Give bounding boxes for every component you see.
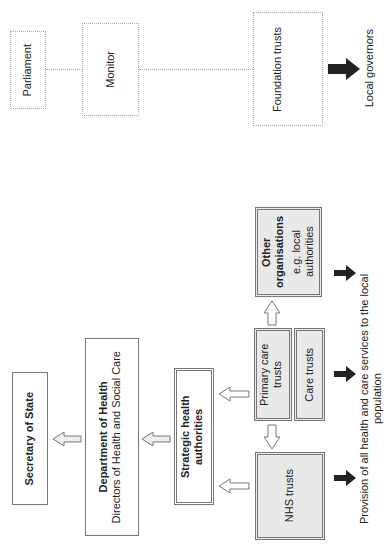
hollow-arrow-icon [263, 424, 281, 450]
nhs-trusts-label: NHS trusts [283, 469, 296, 522]
parliament-box: Parliament [10, 31, 46, 109]
foundation-trusts-box: Foundation trusts [253, 12, 323, 126]
hollow-arrow-icon [263, 300, 281, 326]
care-trusts-label: Care trusts [303, 348, 316, 402]
other-organisations-title: Other organisations [260, 210, 290, 294]
connector-line [139, 69, 253, 70]
nhs-trusts-box: NHS trusts [255, 452, 325, 540]
other-organisations-subtitle: e.g. local authorities [290, 210, 318, 294]
hollow-arrow-icon [141, 431, 171, 447]
strategic-health-authorities-label: Strategic health authorities [179, 371, 209, 502]
solid-arrow-icon [334, 470, 356, 486]
hollow-arrow-icon [218, 478, 250, 494]
hollow-arrow-icon [52, 431, 82, 447]
primary-care-trusts-label: Primary care trusts [258, 331, 288, 418]
solid-arrow-icon [328, 58, 360, 80]
secretary-of-state-label: Secretary of State [23, 392, 36, 486]
connector-line [46, 69, 82, 70]
local-governors-label: Local governors [360, 28, 380, 108]
secretary-of-state-box: Secretary of State [12, 372, 48, 505]
solid-arrow-icon [334, 366, 356, 382]
foundation-trusts-label: Foundation trusts [271, 27, 305, 112]
primary-care-trusts-box: Primary care trusts [254, 328, 292, 421]
monitor-box: Monitor [82, 23, 139, 116]
department-of-health-subtitle: Directors of Health and Social Care [110, 351, 123, 523]
strategic-health-authorities-box: Strategic health authorities [174, 368, 214, 505]
department-of-health-box: Department of Health Directors of Health… [85, 338, 139, 536]
monitor-label: Monitor [104, 51, 117, 88]
care-trusts-box: Care trusts [294, 328, 325, 421]
solid-arrow-icon [334, 265, 356, 281]
parliament-label: Parliament [21, 44, 34, 97]
hollow-arrow-icon [218, 386, 250, 402]
provision-label: Provision of all health and care service… [360, 250, 382, 548]
other-organisations-box: Other organisations e.g. local authoriti… [255, 207, 322, 297]
department-of-health-title: Department of Health [97, 351, 110, 523]
